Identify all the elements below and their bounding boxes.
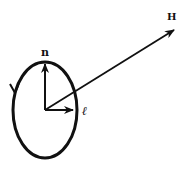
diagram-canvas: n ℓ H bbox=[0, 0, 186, 170]
l-label: ℓ bbox=[82, 104, 87, 118]
orbit-direction-arrow-icon bbox=[10, 83, 19, 93]
vector-diagram: n ℓ H bbox=[0, 0, 186, 170]
n-label: n bbox=[41, 46, 49, 59]
H-label: H bbox=[167, 11, 176, 22]
